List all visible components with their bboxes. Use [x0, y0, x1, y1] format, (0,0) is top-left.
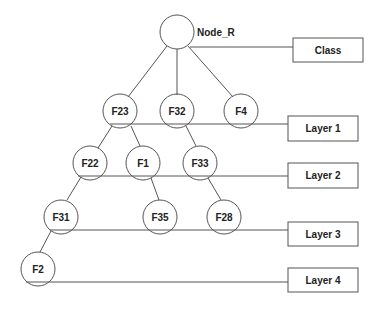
label-f31: F31 — [52, 212, 70, 223]
edge-f1-f35 — [151, 178, 159, 200]
label-f32: F32 — [168, 106, 186, 117]
edge-f23-f1 — [131, 126, 140, 146]
label-f35: F35 — [151, 212, 169, 223]
layer3-box-label: Layer 3 — [305, 229, 340, 240]
layer2-box-label: Layer 2 — [305, 170, 340, 181]
edge-f23-f22 — [98, 126, 112, 148]
edge-f32-f33 — [186, 126, 196, 146]
label-f33: F33 — [191, 158, 209, 169]
label-f28: F28 — [215, 212, 233, 223]
label-f4: F4 — [235, 106, 247, 117]
layer4-box-label: Layer 4 — [305, 275, 340, 286]
edge-f31-f2 — [40, 231, 51, 252]
edge-noder-f4 — [188, 46, 233, 97]
root-side-label: Node_R — [197, 27, 236, 38]
edge-f33-f28 — [208, 178, 221, 200]
label-f22: F22 — [81, 158, 99, 169]
tree-diagram: Node_R F23 F32 F4 F22 F1 F33 F31 F35 F28… — [0, 0, 379, 309]
node-root — [160, 15, 194, 49]
edge-noder-f23 — [128, 46, 167, 97]
label-f2: F2 — [32, 264, 44, 275]
edge-f22-f31 — [67, 177, 81, 200]
label-f1: F1 — [137, 158, 149, 169]
class-box-label: Class — [315, 45, 342, 56]
label-f23: F23 — [111, 106, 129, 117]
layer1-box-label: Layer 1 — [305, 123, 340, 134]
